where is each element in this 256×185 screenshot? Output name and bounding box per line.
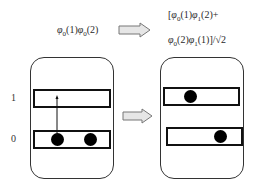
argument: (1)]/√2 (198, 34, 226, 45)
panel-transition-arrow-icon (122, 108, 154, 124)
excitation-arrow-icon (54, 94, 60, 136)
electron-2 (84, 133, 97, 146)
argument: (2)+ (201, 9, 218, 20)
electron-excited (184, 90, 197, 103)
formula-transition-arrow-icon (118, 22, 152, 38)
initial-state-formula: φ0(1)φ0(2) (57, 24, 98, 38)
final-state-formula-line2: φ0(2)φ1(1)]/√2 (168, 34, 226, 48)
argument: (1) (180, 9, 192, 20)
argument: (2) (177, 34, 189, 45)
excited-state-panel (160, 57, 244, 179)
argument: (2) (87, 24, 99, 35)
left-lower-level (33, 130, 111, 149)
electron-ground (214, 130, 227, 143)
level-label-0: 0 (11, 133, 16, 144)
level-label-1: 1 (11, 92, 16, 103)
right-lower-level (166, 127, 243, 146)
left-upper-level (33, 89, 111, 108)
right-upper-level (163, 87, 240, 106)
final-state-formula-line1: [φ0(1)φ1(2)+ (168, 9, 218, 23)
argument: (1) (66, 24, 78, 35)
ground-state-panel (30, 57, 114, 179)
